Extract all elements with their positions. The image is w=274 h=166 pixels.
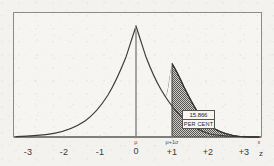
tick-label-minus-1: -1 (96, 148, 104, 157)
percent-callout-box: 15.866 PER CENT (182, 110, 215, 129)
percent-unit: PER CENT (183, 120, 214, 128)
mean-symbol-label: μ (134, 140, 137, 146)
tick-label-plus-3: +3 (239, 148, 250, 157)
tick-label-minus-2: -2 (60, 148, 68, 157)
tick-label-plus-2: +2 (203, 148, 214, 157)
normal-distribution-figure: 15.866 PER CENT μ μ+1σ x -3 -2 -1 0 +1 +… (0, 0, 274, 166)
sigma-symbol-label: μ+1σ (165, 140, 178, 146)
tick-label-zero: 0 (133, 147, 138, 156)
percent-value: 15.866 (183, 111, 214, 120)
tick-label-minus-3: -3 (24, 148, 32, 157)
z-axis-name-label: z (259, 150, 263, 158)
tick-label-plus-1: +1 (167, 148, 178, 157)
x-axis-name-label: x (258, 140, 261, 146)
